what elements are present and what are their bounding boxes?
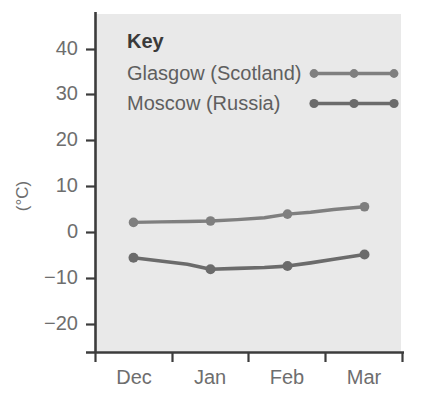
- y-tick-label: 0: [67, 220, 78, 242]
- x-tick-label: Feb: [270, 366, 304, 388]
- data-point-marker: [360, 250, 370, 260]
- y-tick-label: 20: [56, 128, 78, 150]
- data-point-marker: [129, 253, 139, 263]
- legend-entry-label: Glasgow (Scotland): [127, 62, 302, 84]
- y-tick-label: 30: [56, 82, 78, 104]
- legend-swatch-dot: [390, 69, 399, 78]
- data-point-marker: [283, 209, 293, 219]
- legend-swatch-dot: [389, 99, 398, 108]
- data-point-marker: [206, 216, 216, 226]
- legend-title: Key: [127, 30, 165, 52]
- y-tick-label: 40: [56, 37, 78, 59]
- legend-swatch-dot: [309, 99, 318, 108]
- legend-swatch-dot: [350, 69, 359, 78]
- y-tick-label: −10: [44, 266, 78, 288]
- legend-swatch-dot: [349, 99, 358, 108]
- legend-entry-label: Moscow (Russia): [127, 92, 280, 114]
- chart-figure: 40 30 20 10 0 −10 −20 (°C) Dec Jan Feb M…: [0, 0, 427, 415]
- x-tick-label: Dec: [116, 366, 152, 388]
- y-tick-label: 10: [56, 174, 78, 196]
- x-tick-label: Jan: [194, 366, 226, 388]
- data-point-marker: [360, 202, 370, 212]
- y-tick-label: −20: [44, 312, 78, 334]
- legend-swatch-dot: [310, 69, 319, 78]
- data-point-marker: [206, 264, 216, 274]
- x-tick-label: Mar: [347, 366, 382, 388]
- temperature-line-chart: 40 30 20 10 0 −10 −20 (°C) Dec Jan Feb M…: [0, 0, 427, 415]
- data-point-marker: [129, 218, 139, 228]
- data-point-marker: [283, 261, 293, 271]
- y-axis-title: (°C): [13, 181, 32, 211]
